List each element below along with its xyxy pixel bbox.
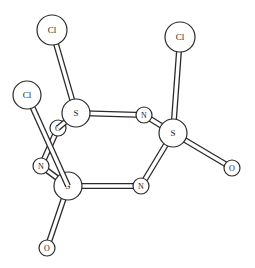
atom-label: N: [38, 162, 44, 171]
atom-n2: N: [33, 158, 49, 174]
atom-n3: N: [133, 178, 149, 194]
atom-s2: S: [159, 119, 187, 147]
atom-label: O: [229, 164, 235, 173]
atom-o3: O: [39, 240, 55, 256]
atom-label: Cl: [23, 90, 32, 100]
molecule-svg: OClSClNOSNNOSCl: [0, 0, 255, 268]
atom-label: Cl: [176, 32, 185, 42]
atom-label: S: [170, 128, 175, 138]
atom-label: O: [44, 244, 50, 253]
atom-label: S: [73, 108, 78, 118]
molecule-diagram: OClSClNOSNNOSCl: [0, 0, 255, 268]
atom-o2: O: [224, 160, 240, 176]
atom-n1: N: [136, 107, 152, 123]
atom-cl1: Cl: [37, 15, 67, 45]
atom-label: Cl: [48, 25, 57, 35]
atom-s1: S: [62, 99, 90, 127]
atom-label: N: [138, 182, 144, 191]
atom-cl3: Cl: [13, 81, 41, 109]
atom-label: N: [141, 111, 147, 120]
atom-cl2: Cl: [165, 22, 195, 52]
